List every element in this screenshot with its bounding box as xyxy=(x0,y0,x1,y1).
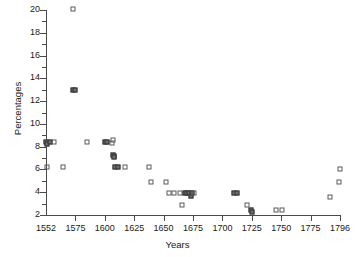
data-point-marker xyxy=(109,141,114,146)
y-tick-major xyxy=(40,215,46,216)
data-point-marker xyxy=(180,202,185,207)
data-point-marker xyxy=(112,154,117,159)
y-tick-minor xyxy=(42,135,46,136)
data-point-marker xyxy=(328,194,333,199)
data-point-marker xyxy=(70,6,75,11)
x-tick-major xyxy=(252,215,253,221)
data-point-marker xyxy=(73,87,78,92)
y-tick-major xyxy=(40,33,46,34)
x-tick-label: 1575 xyxy=(65,224,85,233)
x-tick-major xyxy=(311,215,312,221)
x-tick-major xyxy=(164,215,165,221)
y-tick-minor xyxy=(42,204,46,205)
data-point-marker xyxy=(60,165,65,170)
y-tick-minor xyxy=(42,90,46,91)
plot-data-area xyxy=(46,10,340,215)
x-tick-major xyxy=(75,215,76,221)
y-tick-major xyxy=(40,10,46,11)
x-tick-label: 1625 xyxy=(124,224,144,233)
y-tick-minor xyxy=(42,113,46,114)
x-tick-label: 1552 xyxy=(36,224,56,233)
y-tick-label: 6 xyxy=(6,164,40,173)
data-point-marker xyxy=(245,202,250,207)
data-point-marker xyxy=(148,179,153,184)
data-point-marker xyxy=(115,165,120,170)
y-tick-minor xyxy=(42,158,46,159)
y-tick-major xyxy=(40,56,46,57)
x-tick-major xyxy=(134,215,135,221)
data-point-marker xyxy=(234,191,239,196)
data-point-marker xyxy=(163,179,168,184)
x-tick-label: 1650 xyxy=(154,224,174,233)
x-tick-major xyxy=(222,215,223,221)
data-point-marker xyxy=(172,191,177,196)
data-point-marker xyxy=(192,191,197,196)
y-tick-major xyxy=(40,78,46,79)
y-tick-minor xyxy=(42,44,46,45)
y-tick-major xyxy=(40,101,46,102)
scatter-chart-figure: 2468101214161820 Years Percentages 15521… xyxy=(0,0,355,257)
data-point-marker xyxy=(85,140,90,145)
y-tick-minor xyxy=(42,181,46,182)
y-tick-minor xyxy=(42,21,46,22)
x-tick-label: 1725 xyxy=(242,224,262,233)
x-axis-title: Years xyxy=(0,239,355,250)
data-point-marker xyxy=(51,140,56,145)
y-tick-major xyxy=(40,169,46,170)
y-tick-major xyxy=(40,124,46,125)
data-point-marker xyxy=(338,167,343,172)
y-tick-major xyxy=(40,192,46,193)
y-tick-label: 2 xyxy=(6,210,40,219)
x-tick-label: 1796 xyxy=(330,224,350,233)
data-point-marker xyxy=(280,208,285,213)
x-tick-major xyxy=(281,215,282,221)
data-point-marker xyxy=(336,179,341,184)
y-tick-label: 20 xyxy=(6,5,40,14)
x-tick-label: 1775 xyxy=(301,224,321,233)
data-point-marker xyxy=(122,165,127,170)
x-tick-label: 1600 xyxy=(95,224,115,233)
x-tick-label: 1750 xyxy=(271,224,291,233)
data-point-marker xyxy=(249,209,254,214)
x-tick-label: 1675 xyxy=(183,224,203,233)
x-tick-major xyxy=(193,215,194,221)
data-point-marker xyxy=(147,165,152,170)
y-tick-label: 18 xyxy=(6,28,40,37)
y-tick-minor xyxy=(42,67,46,68)
y-tick-major xyxy=(40,147,46,148)
y-tick-label: 4 xyxy=(6,187,40,196)
data-point-marker xyxy=(274,208,279,213)
x-tick-major xyxy=(105,215,106,221)
x-tick-major xyxy=(340,215,341,221)
x-tick-label: 1700 xyxy=(212,224,232,233)
y-axis-title: Percentages xyxy=(12,54,23,164)
